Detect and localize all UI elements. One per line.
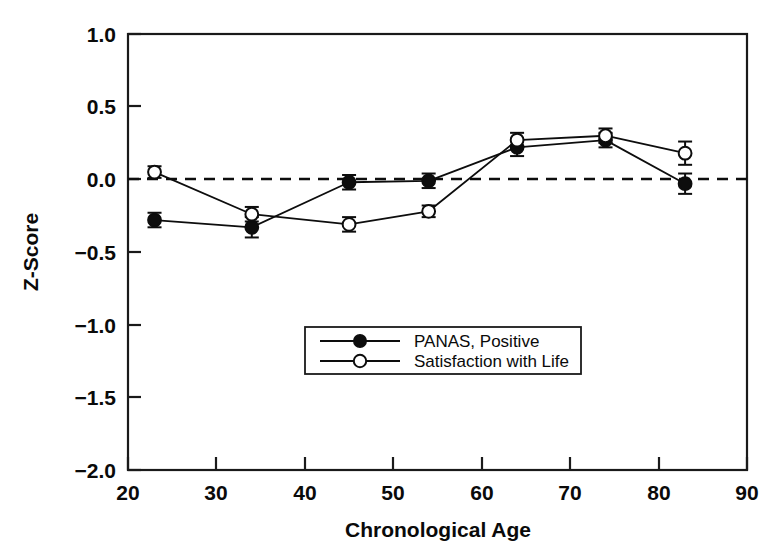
data-point-filled-circle [422, 174, 435, 187]
y-tick-label-5: −1.5 [75, 386, 117, 409]
z-score-line-chart: 1.0 0.5 0.0 −0.5 −1.0 −1.5 −2.0 20 30 40… [0, 0, 781, 548]
x-tick-label-2: 40 [293, 481, 316, 504]
chart-figure: 1.0 0.5 0.0 −0.5 −1.0 −1.5 −2.0 20 30 40… [0, 0, 781, 548]
data-point-filled-circle [245, 221, 258, 234]
y-tick-label-4: −1.0 [75, 314, 116, 337]
x-tick-label-6: 80 [647, 481, 670, 504]
x-axis-title: Chronological Age [345, 518, 531, 541]
data-point-open-circle [343, 218, 356, 231]
legend-marker-filled-circle-icon [354, 335, 366, 347]
legend-label-1: Satisfaction with Life [414, 352, 569, 371]
y-tick-label-1: 0.5 [87, 95, 117, 118]
x-tick-label-1: 30 [204, 481, 227, 504]
data-point-open-circle [245, 208, 258, 221]
chart-background [0, 0, 781, 548]
chart-legend[interactable]: PANAS, Positive Satisfaction with Life [305, 327, 581, 374]
data-point-open-circle [422, 205, 435, 218]
data-point-open-circle [599, 129, 612, 142]
x-tick-label-5: 70 [558, 481, 581, 504]
data-point-filled-circle [148, 213, 161, 226]
y-tick-label-6: −2.0 [75, 459, 116, 482]
x-tick-label-4: 60 [470, 481, 493, 504]
y-axis-title: Z-Score [19, 213, 42, 291]
data-point-open-circle [511, 134, 524, 147]
data-point-open-circle [679, 147, 692, 160]
data-point-filled-circle [679, 177, 692, 190]
legend-label-0: PANAS, Positive [414, 332, 539, 351]
y-tick-label-2: 0.0 [87, 168, 116, 191]
y-tick-label-3: −0.5 [75, 241, 117, 264]
x-tick-label-7: 90 [735, 481, 758, 504]
x-tick-label-3: 50 [381, 481, 404, 504]
data-point-open-circle [148, 166, 161, 179]
y-tick-label-0: 1.0 [87, 23, 116, 46]
x-tick-label-0: 20 [116, 481, 139, 504]
legend-marker-open-circle-icon [354, 355, 366, 367]
data-point-filled-circle [342, 176, 355, 189]
